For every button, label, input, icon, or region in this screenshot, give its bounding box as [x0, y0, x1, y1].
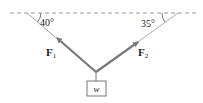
weight-label: w	[93, 84, 99, 94]
f2-arrow	[96, 42, 138, 72]
right-angle-label: 35°	[141, 18, 155, 29]
left-angle-label: 40°	[40, 17, 54, 28]
f2-label: F2	[138, 46, 149, 60]
f1-arrow	[57, 38, 96, 72]
right-angle-arc	[162, 13, 165, 22]
force-diagram: 40° 35° F1 F2 w	[0, 0, 203, 103]
f1-label: F1	[46, 46, 57, 60]
